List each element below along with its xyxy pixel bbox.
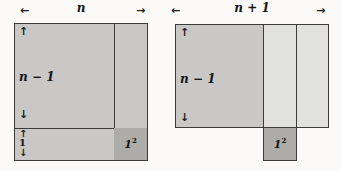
right-height-arrow-down-icon: ↓ <box>180 112 189 123</box>
left-strip-arrow-down-icon: ↓ <box>19 148 27 157</box>
left-unit-square: 12 <box>114 128 147 160</box>
left-width-label: n <box>14 2 148 14</box>
right-moved-column-b <box>296 25 328 127</box>
left-height-arrow-up-icon: ↑ <box>19 26 28 37</box>
right-unit-square: 12 <box>263 127 297 161</box>
left-width-arrow-right-icon: → <box>136 5 145 16</box>
right-width-arrow-right-icon: → <box>316 5 325 16</box>
right-width-label: n + 1 <box>175 2 329 14</box>
right-unit-square-label: 12 <box>274 139 287 150</box>
diagram-canvas: ← n → ↑ n − 1 ↓ ↑ 1 ↓ 12 ← n + 1 <box>0 0 342 171</box>
right-rectangle-outline: ↑ n − 1 ↓ <box>175 24 329 128</box>
right-height-arrow-up-icon: ↑ <box>180 27 189 38</box>
left-square-outline: ↑ n − 1 ↓ ↑ 1 ↓ 12 <box>14 23 148 161</box>
left-strip-annotation: ↑ 1 ↓ <box>19 129 27 157</box>
right-height-label: n − 1 <box>180 73 215 85</box>
right-moved-column-a <box>263 25 296 127</box>
left-height-arrow-down-icon: ↓ <box>19 109 28 120</box>
left-height-label: n − 1 <box>19 71 54 83</box>
left-unit-square-label: 12 <box>124 139 137 150</box>
